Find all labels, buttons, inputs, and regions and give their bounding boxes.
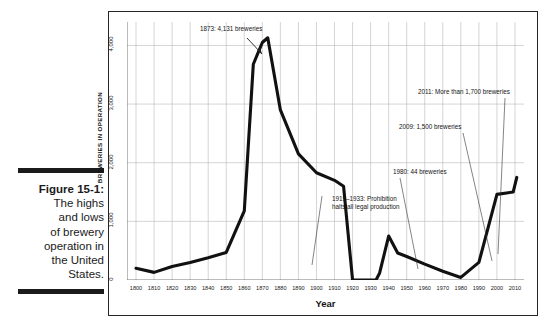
figure-caption-line: and lows <box>18 210 104 224</box>
chart-annotation-low-1980: 1980: 44 breweries <box>393 168 447 176</box>
chart-annotation-count-2011: 2011: More than 1,700 breweries <box>418 88 510 96</box>
figure-caption-line: States. <box>18 267 104 281</box>
annotation-line: 1919–1933: Prohibition <box>332 195 400 203</box>
figure-caption-block: Figure 15-1: The highsand lowsof brewery… <box>18 168 104 294</box>
figure-caption-line: of brewery <box>18 225 104 239</box>
annotation-line: halts all legal production <box>332 203 400 211</box>
chart-plot-area <box>127 22 524 280</box>
data-line <box>136 38 517 280</box>
figure-caption-label: Figure 15-1: <box>39 183 104 195</box>
x-axis-title: Year <box>127 298 524 309</box>
chart-series-group <box>136 38 517 280</box>
chart-annotation-count-2009: 2009: 1,500 breweries <box>399 123 461 131</box>
annotation-leader-count-2009 <box>463 133 492 261</box>
chart-gridlines <box>127 22 524 280</box>
caption-rule-bottom <box>18 289 104 294</box>
figure-caption-text: Figure 15-1: The highsand lowsof brewery… <box>18 182 104 281</box>
y-tick-label: 4,000 <box>108 34 114 54</box>
annotation-leader-prohibition <box>312 196 322 265</box>
y-tick-label: 1,000 <box>108 210 114 230</box>
chart-annotation-peak-1873: 1873: 4,131 breweries <box>200 25 262 33</box>
y-tick-label: 3,000 <box>108 93 114 113</box>
figure-page: Figure 15-1: The highsand lowsof brewery… <box>0 0 551 326</box>
annotation-leader-lines <box>247 38 505 269</box>
y-tick-label: 2,000 <box>108 152 114 172</box>
figure-caption-line: the United <box>18 253 104 267</box>
x-tick-label: 2010 <box>504 285 526 291</box>
figure-caption-line: The highs <box>18 196 104 210</box>
annotation-leader-count-2011 <box>498 98 505 254</box>
caption-rule-top <box>18 168 104 173</box>
y-tick-label: 0 <box>108 269 114 289</box>
y-axis-title: BREWERIES IN OPERATION <box>96 92 103 183</box>
brewery-line-chart <box>127 22 524 280</box>
figure-caption-lines: The highsand lowsof breweryoperation int… <box>18 196 104 281</box>
figure-caption-line: operation in <box>18 239 104 253</box>
chart-annotation-prohibition: 1919–1933: Prohibitionhalts all legal pr… <box>332 195 400 211</box>
